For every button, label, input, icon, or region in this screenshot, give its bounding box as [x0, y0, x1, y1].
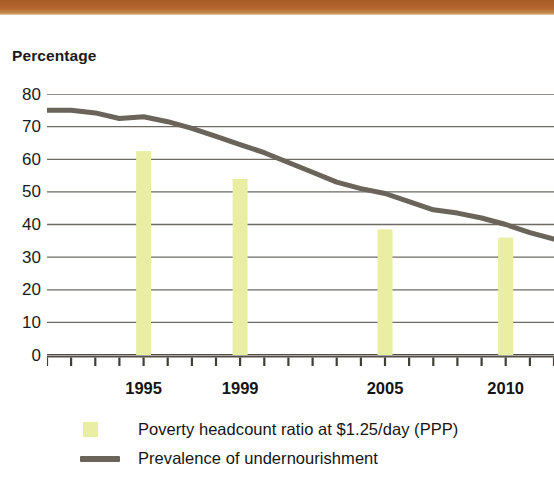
x-axis	[47, 355, 554, 377]
chart-legend: Poverty headcount ratio at $1.25/day (PP…	[80, 415, 500, 473]
y-tick-label: 30	[5, 249, 41, 266]
legend-item: Prevalence of undernourishment	[80, 444, 500, 473]
y-tick-label: 70	[5, 118, 41, 135]
x-tick-label: 1999	[222, 379, 259, 398]
x-axis-ticks	[47, 358, 554, 367]
legend-label: Prevalence of undernourishment	[138, 449, 378, 468]
y-tick-label: 60	[5, 151, 41, 168]
gridlines	[47, 94, 554, 355]
y-tick-label: 0	[5, 347, 41, 364]
chart-figure: Percentage 80706050403020100 19951999200…	[0, 15, 554, 504]
y-tick-label: 10	[5, 314, 41, 331]
legend-square-swatch	[83, 422, 98, 437]
legend-swatch-wrapper	[80, 422, 138, 437]
y-tick-label: 40	[5, 216, 41, 233]
x-tick-label: 2005	[367, 379, 404, 398]
y-axis-tick-labels: 80706050403020100	[0, 94, 41, 355]
bar	[498, 238, 513, 355]
line-series	[47, 110, 554, 239]
legend-swatch-wrapper	[80, 456, 138, 462]
plot-svg	[47, 94, 554, 355]
bar-series	[136, 151, 513, 355]
x-tick-label: 2010	[487, 379, 524, 398]
trend-line	[47, 110, 554, 239]
y-tick-label: 50	[5, 183, 41, 200]
x-tick-label: 1995	[125, 379, 162, 398]
bar	[136, 151, 151, 355]
y-tick-label: 80	[5, 86, 41, 103]
y-axis-title: Percentage	[12, 47, 97, 65]
legend-label: Poverty headcount ratio at $1.25/day (PP…	[138, 420, 458, 439]
bar	[233, 179, 248, 355]
y-tick-label: 20	[5, 281, 41, 298]
legend-line-swatch	[80, 456, 120, 462]
top-decorative-band	[0, 0, 554, 15]
bar	[378, 229, 393, 355]
x-axis-year-labels: 1995199920052010	[47, 379, 554, 403]
legend-item: Poverty headcount ratio at $1.25/day (PP…	[80, 415, 500, 444]
plot-area	[47, 94, 554, 355]
x-axis-svg	[47, 355, 554, 377]
